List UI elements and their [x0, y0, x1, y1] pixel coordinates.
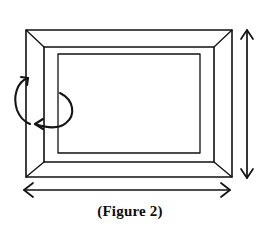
- figure-caption: (Figure 2): [0, 203, 260, 220]
- figure-canvas: (Figure 2): [0, 0, 260, 232]
- figure-drawing: [0, 0, 260, 232]
- picture-frame: [26, 30, 232, 177]
- width-dimension-arrow: [24, 183, 230, 197]
- height-dimension-arrow: [241, 30, 253, 178]
- frame-outer-face: [26, 30, 232, 177]
